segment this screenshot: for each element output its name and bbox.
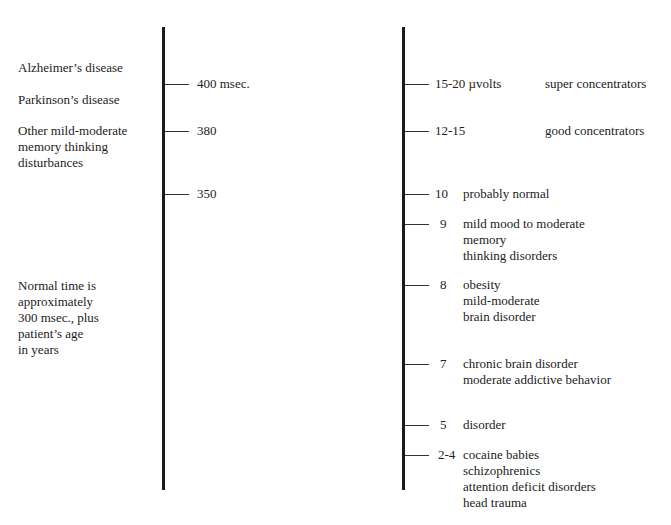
desc-line: brain disorder [463,309,540,325]
tick-value-5: 5 [440,417,447,433]
desc-line: attention deficit disorders [463,479,596,495]
condition-line: disturbances [18,155,127,171]
tick-desc-9: mild mood to moderate memory thinking di… [463,216,585,264]
tick-value-8: 8 [440,277,447,293]
tick-mark [405,425,429,426]
tick-value-12-15: 12-15 [435,123,465,139]
condition-line: Parkinson’s disease [18,92,119,108]
note-line: Normal time is [18,278,99,294]
note-line: approximately [18,294,99,310]
tick-mark [165,194,189,195]
condition-alzheimers: Alzheimer’s disease [18,60,123,76]
note-line: in years [18,342,99,358]
desc-line: thinking disorders [463,248,585,264]
tick-value-15-20: 15-20 µvolts [435,76,501,92]
tick-label-400: 400 msec. [197,76,250,92]
tick-desc-2-4: cocaine babies schizophrenics attention … [463,447,596,511]
tick-mark [405,194,429,195]
tick-value-9: 9 [440,216,447,232]
desc-line: head trauma [463,495,596,511]
tick-label-350: 350 [197,186,217,202]
condition-line: memory thinking [18,139,127,155]
tick-mark [165,84,189,85]
tick-mark [405,84,429,85]
tick-desc-disorder: disorder [463,417,506,433]
tick-label-380: 380 [197,123,217,139]
condition-line: Other mild-moderate [18,123,127,139]
condition-parkinsons: Parkinson’s disease [18,92,119,108]
desc-line: mild-moderate [463,293,540,309]
tick-mark [405,364,429,365]
desc-line: memory [463,232,585,248]
note-line: patient’s age [18,326,99,342]
condition-line: Alzheimer’s disease [18,60,123,76]
normal-time-note: Normal time is approximately 300 msec., … [18,278,99,358]
tick-desc-super-concentrators: super concentrators [545,76,646,92]
desc-line: cocaine babies [463,447,596,463]
left-scale-axis [162,27,165,490]
desc-line: schizophrenics [463,463,596,479]
tick-mark [405,224,429,225]
desc-line: obesity [463,277,540,293]
tick-desc-good-concentrators: good concentrators [545,123,644,139]
tick-value-10: 10 [435,186,448,202]
tick-value-7: 7 [440,356,447,372]
desc-line: chronic brain disorder [463,356,611,372]
tick-mark [405,285,429,286]
condition-other-mild-moderate: Other mild-moderate memory thinking dist… [18,123,127,171]
tick-desc-probably-normal: probably normal [463,186,549,202]
note-line: 300 msec., plus [18,310,99,326]
tick-mark [405,455,429,456]
tick-mark [165,131,189,132]
tick-desc-8: obesity mild-moderate brain disorder [463,277,540,325]
tick-mark [405,131,429,132]
tick-value-2-4: 2-4 [438,447,455,463]
right-scale-axis [402,27,405,490]
tick-desc-7: chronic brain disorder moderate addictiv… [463,356,611,388]
desc-line: moderate addictive behavior [463,372,611,388]
desc-line: mild mood to moderate [463,216,585,232]
